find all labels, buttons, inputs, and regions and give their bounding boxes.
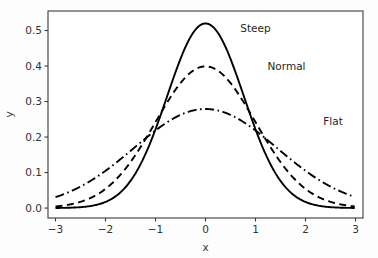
x-axis-label: x [202, 241, 208, 253]
annotation-normal: Normal [268, 60, 306, 72]
x-tick-label: 3 [352, 223, 359, 235]
x-tick-label: −3 [48, 223, 63, 235]
y-tick-label: 0.4 [25, 60, 42, 72]
x-tick-label: 0 [202, 223, 209, 235]
y-tick-label: 0.5 [25, 24, 42, 36]
annotation-flat: Flat [323, 115, 343, 127]
axes-background [48, 11, 363, 218]
chart-figure: 0.00.10.20.30.40.5 −3−2−10123 SteepNorma… [0, 0, 378, 258]
annotation-steep: Steep [240, 22, 271, 34]
x-tick-label: −2 [98, 223, 113, 235]
y-tick-label: 0.2 [25, 131, 42, 143]
y-tick-label: 0.3 [25, 95, 42, 107]
x-tick-label: 2 [302, 223, 309, 235]
gaussian-comparison-chart: 0.00.10.20.30.40.5 −3−2−10123 SteepNorma… [0, 0, 378, 258]
y-tick-label: 0.1 [25, 166, 42, 178]
y-tick-label: 0.0 [25, 202, 42, 214]
y-axis-label: y [3, 111, 15, 117]
x-tick-label: 1 [252, 223, 259, 235]
x-tick-label: −1 [148, 223, 163, 235]
